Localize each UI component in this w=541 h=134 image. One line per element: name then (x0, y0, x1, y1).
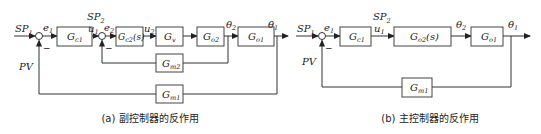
diagram-a-secondary-controller-reverse-action: SP1 e1 – Gc1 SP2 u1 e2 – Gc2(s) u2 Gv Go… (14, 11, 288, 124)
sp1-label-b: SP1 (297, 23, 315, 37)
minus-sign-2: – (106, 42, 112, 53)
u1-label-b: u1 (374, 23, 385, 36)
caption-a: (a) 副控制器的反作用 (101, 112, 198, 124)
e1-label: e1 (43, 22, 53, 35)
pv-label: PV (18, 61, 35, 72)
theta2-label-b: θ2 (456, 19, 466, 32)
e1-label-b: e1 (324, 22, 334, 35)
feedback-line-left-b (322, 41, 402, 88)
minus-sign-b: – (326, 42, 332, 53)
e2-label: e2 (104, 22, 114, 35)
caption-b: (b) 主控制器的反作用 (381, 112, 478, 124)
sp1-label: SP1 (15, 23, 33, 37)
summing-junction-2 (99, 33, 106, 40)
minus-sign-1: – (44, 42, 50, 53)
outer-feedback-line-left (39, 41, 156, 95)
summing-junction-b (319, 33, 326, 40)
theta2-label: θ2 (226, 19, 236, 32)
pv-label-b: PV (301, 56, 318, 67)
u2-label: u2 (144, 23, 155, 36)
theta1-label-b: θ1 (508, 19, 518, 32)
control-block-diagrams: SP1 e1 – Gc1 SP2 u1 e2 – Gc2(s) u2 Gv Go… (0, 0, 541, 134)
diagram-b-primary-controller-reverse-action: SP1 e1 – Gc1 SP2 u1 Go2(s) θ2 Go1 θ1 Gm1… (296, 11, 530, 124)
summing-junction-1 (36, 33, 43, 40)
